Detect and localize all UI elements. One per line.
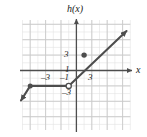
- function-curve: [21, 31, 127, 101]
- y-tick-label-3: 3: [64, 50, 69, 59]
- x-tick-label-neg-3: –3: [41, 73, 50, 82]
- coordinate-plane: [0, 0, 147, 137]
- graph-figure: h(x) x 3 1 –1 –3 –3 3: [0, 0, 147, 137]
- x-tick-label-3: 3: [88, 73, 93, 82]
- x-tick-label-neg-1: –1: [60, 73, 69, 82]
- y-tick-label-neg-3: –3: [62, 88, 71, 97]
- right-ray: [69, 31, 127, 86]
- function-label: h(x): [67, 4, 83, 14]
- isolated-point: [81, 52, 86, 57]
- x-axis-label: x: [136, 65, 140, 75]
- closed-endpoint-left: [28, 83, 33, 88]
